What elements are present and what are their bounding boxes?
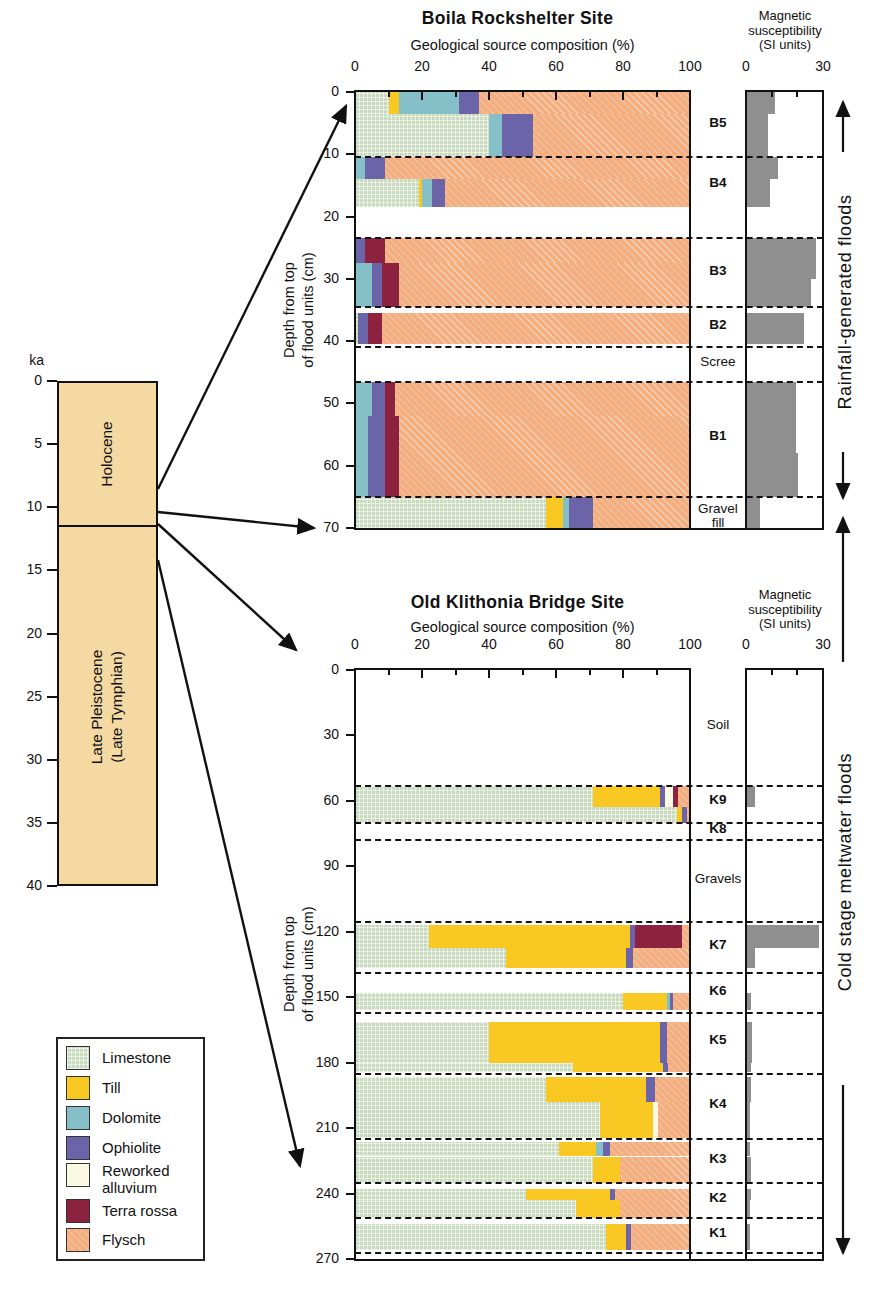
segment-limestone <box>355 1189 526 1200</box>
segment-limestone <box>355 1157 593 1183</box>
old-x-tick-label: 100 <box>668 636 712 652</box>
segment-terra-rossa <box>635 925 682 948</box>
boila-composition-bar <box>355 179 690 207</box>
boila-depth-tick <box>346 340 355 342</box>
boila-ms-title-line1: Magnetic <box>726 9 844 24</box>
timeline-tick-label: 5 <box>9 435 42 451</box>
old-depth-tick <box>346 669 355 671</box>
segment-till <box>546 497 563 528</box>
boila-composition-bar <box>355 238 690 263</box>
boila-composition-bar <box>355 382 690 416</box>
old-depth-tick <box>346 1193 355 1195</box>
legend-label-ophiolite: Ophiolite <box>102 1139 196 1156</box>
timeline-tick <box>47 380 57 382</box>
segment-ophiolite <box>569 497 592 528</box>
boila-composition-bar <box>355 157 690 179</box>
segment-dolomite <box>399 92 459 114</box>
old-composition-bar <box>355 948 690 968</box>
legend-swatch-dolomite <box>66 1106 90 1130</box>
segment-till <box>526 1189 610 1200</box>
old-unit-boundary-line <box>355 1182 823 1184</box>
segment-limestone <box>355 807 677 822</box>
old-unit-label-k2: K2 <box>691 1191 745 1205</box>
old-ms-right-line <box>822 668 824 1261</box>
segment-flysch <box>385 157 690 179</box>
boila-x-tick <box>421 92 423 100</box>
segment-dolomite <box>355 416 368 497</box>
segment-flysch <box>673 993 690 1011</box>
boila-x-tick <box>622 92 624 100</box>
connector-arrow-klithonia-top <box>158 524 296 650</box>
segment-till <box>546 1077 647 1102</box>
segment-terra-rossa <box>382 263 399 307</box>
klithonia-ms-title-line3: (SI units) <box>726 617 844 632</box>
old-unit-boundary-line <box>355 839 823 841</box>
boila-depth-tick-label: 30 <box>295 270 339 286</box>
boila-composition-bar <box>355 114 690 158</box>
old-ms-bar <box>747 1102 750 1138</box>
boila-ms-tick-label: 0 <box>731 58 761 74</box>
boila-ms-minor-tick <box>796 92 798 97</box>
segment-limestone <box>355 1102 600 1138</box>
old-composition-bar <box>355 925 690 948</box>
old-depth-axis <box>354 668 356 1261</box>
segment-flysch <box>633 948 690 968</box>
legend-label-dolomite: Dolomite <box>102 1109 196 1126</box>
old-composition-bar <box>355 786 690 808</box>
old-x-minor-tick <box>455 670 457 675</box>
old-composition-bar <box>355 1022 690 1062</box>
boila-depth-tick-label: 20 <box>295 208 339 224</box>
timeline-tick <box>47 569 57 571</box>
old-composition-bar <box>355 1102 690 1138</box>
segment-ophiolite <box>372 382 385 416</box>
old-x-tick-label: 0 <box>333 636 377 652</box>
late-pleistocene-line2: (Late Tymphian) <box>107 650 127 765</box>
timeline-tick <box>47 885 57 887</box>
boila-ms-title: Magnetic susceptibility (SI units) <box>726 9 844 53</box>
segment-ophiolite <box>372 263 382 307</box>
old-depth-tick-label: 120 <box>295 923 339 939</box>
segment-limestone <box>355 1142 559 1156</box>
segment-flysch <box>385 238 690 263</box>
old-composition-bar <box>355 807 690 822</box>
segment-till <box>489 1022 660 1062</box>
timeline-tick <box>47 633 57 635</box>
old-ms-minor-tick <box>796 670 798 675</box>
segment-flysch <box>395 382 690 416</box>
segment-limestone <box>355 92 389 114</box>
segment-till <box>429 925 630 948</box>
segment-till <box>573 1063 663 1073</box>
segment-ophiolite <box>459 92 479 114</box>
old-x-tick-label: 60 <box>534 636 578 652</box>
old-depth-tick-label: 270 <box>295 1250 339 1266</box>
segment-till <box>559 1142 596 1156</box>
boila-depth-tick-label: 40 <box>295 332 339 348</box>
boila-depth-tick-label: 60 <box>295 457 339 473</box>
segment-ophiolite <box>603 1142 610 1156</box>
old-unit-label-k4: K4 <box>691 1097 745 1111</box>
old-ms-bar <box>747 1142 750 1156</box>
segment-flysch <box>620 1157 690 1183</box>
segment-ophiolite <box>368 416 385 497</box>
boila-depth-tick-label: 10 <box>295 145 339 161</box>
old-depth-tick <box>346 734 355 736</box>
old-unit-boundary-line <box>355 921 823 923</box>
boila-unit-label-b3: B3 <box>691 264 745 278</box>
old-ms-bar <box>747 1063 751 1073</box>
segment-dolomite <box>355 382 372 416</box>
boila-depth-tick-label: 50 <box>295 394 339 410</box>
segment-flysch <box>668 1063 690 1073</box>
old-composition-bar <box>355 1063 690 1073</box>
klithonia-x-axis-title: Geological source composition (%) <box>355 619 690 635</box>
boila-ms-bar <box>747 179 770 207</box>
boila-site-title: Boila Rockshelter Site <box>345 8 690 29</box>
old-ms-bar <box>747 1022 752 1062</box>
boila-ms-minor-tick <box>771 92 773 97</box>
old-unit-boundary-line <box>355 972 823 974</box>
old-ms-left-axis <box>745 668 747 1261</box>
figure-flood-stratigraphy: Boila Rockshelter Site Geological source… <box>0 0 877 1298</box>
segment-limestone <box>355 786 593 808</box>
boila-ms-title-line2: susceptibility <box>726 24 844 39</box>
segment-limestone <box>355 1200 576 1218</box>
segment-dolomite <box>422 179 432 207</box>
